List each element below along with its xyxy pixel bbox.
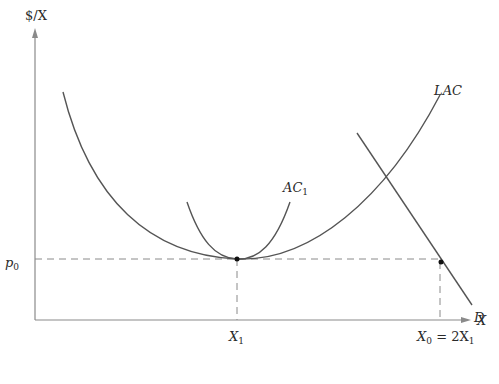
demand-line — [357, 133, 472, 305]
x1-label: X1 — [228, 329, 244, 346]
demand-label: D — [473, 310, 485, 325]
y-axis-arrow-icon — [32, 28, 38, 38]
demand-point — [439, 260, 444, 265]
cost-curves-diagram: $/X X p0 LAC AC1 D X1 X0 = 2X1 — [0, 0, 499, 384]
x0-label: X0 = 2X1 — [416, 329, 474, 346]
ac1-curve — [187, 202, 290, 259]
lac-curve — [63, 92, 440, 259]
x-axis-arrow-icon — [461, 317, 471, 323]
lac-label: LAC — [433, 83, 462, 98]
price-label: p0 — [5, 255, 19, 272]
tangency-point — [235, 257, 240, 262]
ac1-label: AC1 — [282, 180, 308, 197]
y-axis-label: $/X — [25, 8, 48, 23]
